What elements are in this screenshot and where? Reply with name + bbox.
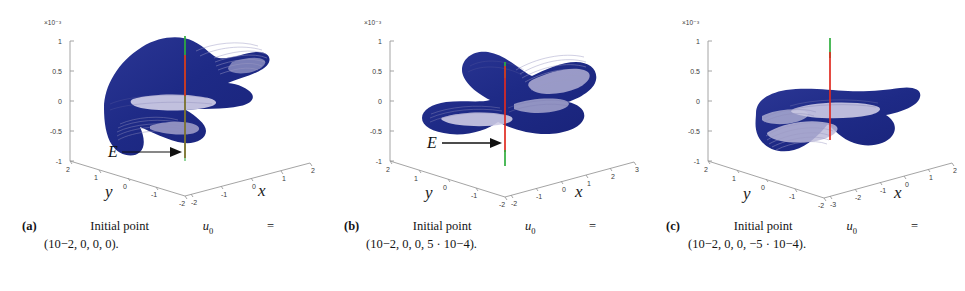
annotation-e-b: E bbox=[426, 134, 502, 151]
caption-a-tag: (a) bbox=[22, 218, 37, 236]
caption-b-eq: = bbox=[589, 218, 596, 236]
y-axis-line-a bbox=[70, 161, 185, 196]
y-tick-a-1: 1 bbox=[94, 174, 98, 181]
caption-b-tag: (b) bbox=[344, 218, 359, 236]
caption-c-line2: (10−2, 0, 0, −5 · 10−4). bbox=[644, 236, 965, 254]
plot-b-svg: ×10⁻³ 1 0.5 0 -0.5 -1 2 1 0 -1 bbox=[322, 0, 644, 215]
x-ticks-a bbox=[191, 163, 312, 197]
y-axis-label-a: y bbox=[103, 182, 113, 201]
caption-a-var-sub: 0 bbox=[209, 226, 213, 236]
x-tick-c-0: -3 bbox=[830, 201, 836, 208]
y-tick-a-0: 2 bbox=[66, 166, 70, 173]
annotation-e-label-a: E bbox=[107, 143, 118, 160]
caption-c-var-sub: 0 bbox=[853, 226, 857, 236]
y-tick-c-2: 0 bbox=[761, 184, 765, 191]
z-tick-b-4: -1 bbox=[376, 158, 382, 165]
caption-c-tag: (c) bbox=[666, 218, 680, 236]
z-exponent-b: ×10⁻³ bbox=[364, 19, 382, 26]
x-axis-line-a bbox=[185, 163, 310, 196]
caption-b: (b) Initial point u0 = (10−2, 0, 0, 5 · … bbox=[322, 218, 644, 254]
annotation-arrow-head-a bbox=[170, 147, 182, 157]
x-tick-a-1: -1 bbox=[221, 191, 227, 198]
caption-c: (c) Initial point u0 = (10−2, 0, 0, −5 ·… bbox=[644, 218, 965, 254]
z-tick-b-3: -0.5 bbox=[370, 128, 382, 135]
y-axis-label-b: y bbox=[423, 183, 433, 202]
y-tick-b-0: 2 bbox=[386, 166, 390, 173]
y-tick-c-3: -1 bbox=[789, 193, 795, 200]
x-tick-b-0: -2 bbox=[511, 200, 517, 207]
z-tick-b-1: 0.5 bbox=[372, 68, 382, 75]
z-tick-c-1: 0.5 bbox=[690, 68, 700, 75]
x-axis-label-a: x bbox=[257, 181, 266, 200]
x-tick-a-4: 2 bbox=[311, 167, 315, 174]
caption-a-line2: (10−2, 0, 0, 0). bbox=[0, 236, 322, 254]
caption-b-line1: (b) Initial point u0 = bbox=[322, 218, 644, 236]
x-tick-c-5: 2 bbox=[953, 167, 957, 174]
annotation-arrow-head-b bbox=[490, 138, 502, 148]
y-axis-line-b bbox=[390, 161, 505, 197]
plot-a: ×10⁻³ 1 0.5 0 -0.5 -1 2 1 0 bbox=[0, 0, 322, 215]
y-tick-b-2: 0 bbox=[443, 184, 447, 191]
panel-b: ×10⁻³ 1 0.5 0 -0.5 -1 2 1 0 -1 bbox=[322, 0, 644, 291]
annotation-e-label-b: E bbox=[426, 134, 437, 151]
y-tick-c-4: -2 bbox=[818, 202, 824, 209]
z-tick-c-2: 0 bbox=[696, 98, 700, 105]
plot-c: ×10⁻³ 1 0.5 0 -0.5 -1 2 1 0 -1 bbox=[644, 0, 965, 215]
z-tick-a-1: 0.5 bbox=[52, 68, 62, 75]
z-exponent-c: ×10⁻³ bbox=[682, 19, 700, 26]
x-tick-a-3: 1 bbox=[282, 175, 286, 182]
z-tick-a-3: -0.5 bbox=[50, 128, 62, 135]
panel-c: ×10⁻³ 1 0.5 0 -0.5 -1 2 1 0 -1 bbox=[644, 0, 965, 291]
z-tick-c-0: 1 bbox=[696, 38, 700, 45]
caption-a-text: Initial point bbox=[90, 218, 149, 236]
x-tick-b-3: 1 bbox=[587, 180, 591, 187]
x-tick-c-2: -1 bbox=[880, 187, 886, 194]
plot-c-svg: ×10⁻³ 1 0.5 0 -0.5 -1 2 1 0 -1 bbox=[644, 0, 965, 215]
x-ticks-b bbox=[511, 162, 636, 198]
caption-b-var-sub: 0 bbox=[531, 226, 535, 236]
caption-b-line2: (10−2, 0, 0, 5 · 10−4). bbox=[322, 236, 644, 254]
y-tick-b-1: 1 bbox=[414, 175, 418, 182]
y-tick-b-3: -1 bbox=[471, 192, 477, 199]
x-axis-label-b: x bbox=[574, 182, 583, 201]
plot-b: ×10⁻³ 1 0.5 0 -0.5 -1 2 1 0 -1 bbox=[322, 0, 644, 215]
caption-c-line1: (c) Initial point u0 = bbox=[644, 218, 965, 236]
z-tick-c-4: -1 bbox=[694, 158, 700, 165]
plot-a-svg: ×10⁻³ 1 0.5 0 -0.5 -1 2 1 0 bbox=[0, 0, 322, 215]
x-tick-b-2: 0 bbox=[562, 186, 566, 193]
y-axis-label-c: y bbox=[741, 184, 751, 203]
x-tick-c-3: 0 bbox=[905, 181, 909, 188]
attractor-surface-a bbox=[104, 37, 270, 155]
z-tick-c-3: -0.5 bbox=[688, 128, 700, 135]
z-ticks-c bbox=[708, 41, 712, 161]
caption-b-text: Initial point bbox=[413, 218, 472, 236]
y-tick-b-4: -2 bbox=[499, 201, 505, 208]
y-tick-a-2: 0 bbox=[123, 183, 127, 190]
x-tick-a-0: -2 bbox=[191, 199, 197, 206]
x-ticks-c bbox=[830, 163, 954, 199]
z-tick-a-0: 1 bbox=[58, 38, 62, 45]
caption-a-var: u0 bbox=[203, 218, 214, 236]
y-tick-c-0: 2 bbox=[704, 166, 708, 173]
x-tick-c-4: 1 bbox=[929, 174, 933, 181]
z-tick-b-0: 1 bbox=[378, 38, 382, 45]
x-tick-c-1: -2 bbox=[855, 194, 861, 201]
x-tick-b-4: 2 bbox=[611, 173, 615, 180]
x-tick-b-5: 3 bbox=[635, 166, 639, 173]
caption-c-var: u0 bbox=[847, 218, 858, 236]
y-tick-a-3: -1 bbox=[151, 191, 157, 198]
z-tick-a-2: 0 bbox=[58, 98, 62, 105]
caption-a-eq: = bbox=[267, 218, 274, 236]
y-tick-c-1: 1 bbox=[732, 175, 736, 182]
caption-b-var: u0 bbox=[525, 218, 536, 236]
x-tick-b-1: -1 bbox=[536, 193, 542, 200]
y-tick-a-4: -2 bbox=[179, 200, 185, 207]
caption-a: (a) Initial point u0 = (10−2, 0, 0, 0). bbox=[0, 218, 322, 254]
attractor-surface-b bbox=[422, 52, 596, 135]
z-tick-b-2: 0 bbox=[378, 98, 382, 105]
x-axis-label-c: x bbox=[893, 183, 902, 202]
caption-a-line1: (a) Initial point u0 = bbox=[0, 218, 322, 236]
z-ticks-b bbox=[390, 41, 394, 161]
x-tick-a-2: 0 bbox=[252, 183, 256, 190]
caption-c-eq: = bbox=[911, 218, 918, 236]
